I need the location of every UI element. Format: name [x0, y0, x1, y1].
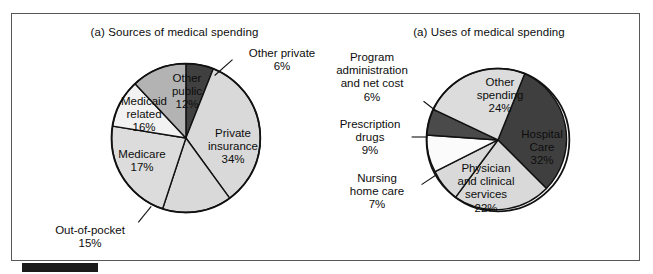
pie-label-other-spending-line2: spending	[463, 89, 537, 102]
leader-line-nursing-home-care	[422, 175, 437, 185]
pie-label-nursing-home-care-line2: home care	[331, 185, 423, 198]
pie-label-other-private-value: 6%	[234, 60, 330, 73]
pie-label-other-private-line1: Other private	[234, 47, 330, 60]
pie-label-program-admin-line2: administration	[321, 64, 423, 77]
pie-label-physician-line2: and clinical	[443, 175, 529, 188]
pie-label-private-insurance-line1: Private	[187, 127, 279, 140]
pie-label-medicaid-related-value: 16%	[107, 121, 181, 134]
pie-label-physician-line3: services	[443, 188, 529, 201]
pie-label-private-insurance-value: 34%	[187, 153, 279, 166]
pie-label-nursing-home-care-value: 7%	[331, 198, 423, 211]
pie-label-other-public-line1: Other	[158, 72, 216, 85]
pie-label-other-spending-value: 24%	[463, 102, 537, 115]
pie-label-prescription-drugs: Prescription drugs 9%	[327, 118, 413, 158]
leader-line-out-of-pocket	[138, 206, 151, 222]
pie-label-other-public-value: 12%	[158, 98, 216, 111]
pie-label-medicare-value: 17%	[105, 161, 179, 174]
pie-label-other-private: Other private 6%	[234, 47, 330, 73]
pie-label-hospital-care-line1: Hospital	[505, 128, 579, 141]
pie-label-other-spending-line1: Other	[463, 76, 537, 89]
footer-black-bar	[22, 263, 98, 272]
pie-label-medicare: Medicare 17%	[105, 148, 179, 174]
pie-label-prescription-drugs-value: 9%	[327, 144, 413, 157]
pie-label-private-insurance: Private insurance 34%	[187, 127, 279, 167]
pie-label-physician-line1: Physician	[443, 162, 529, 175]
panel-uses-of-medical-spending: (a) Uses of medical spending	[337, 14, 641, 260]
pie-label-physician-value: 22%	[443, 202, 529, 215]
pie-label-program-admin-line1: Program	[321, 51, 423, 64]
pie-label-other-public-line2: public	[158, 85, 216, 98]
pie-label-program-admin-line3: and net cost	[321, 77, 423, 90]
pie-label-other-spending: Other spending 24%	[463, 76, 537, 116]
pie-label-nursing-home-care: Nursing home care 7%	[331, 172, 423, 212]
pie-label-other-public: Other public 12%	[158, 72, 216, 112]
pie-label-hospital-care-line2: Care	[505, 141, 579, 154]
pie-label-private-insurance-line2: insurance	[187, 140, 279, 153]
pie-label-out-of-pocket-line1: Out-of-pocket	[38, 224, 142, 237]
pie-label-prescription-drugs-line2: drugs	[327, 131, 413, 144]
figure-frame: (a) Sources of medical spending	[11, 13, 640, 261]
panel-sources-of-medical-spending: (a) Sources of medical spending	[12, 14, 337, 260]
pie-label-out-of-pocket: Out-of-pocket 15%	[38, 224, 142, 250]
pie-label-program-admin-value: 6%	[321, 91, 423, 104]
figure-root: (a) Sources of medical spending	[0, 0, 653, 274]
pie-label-nursing-home-care-line1: Nursing	[331, 172, 423, 185]
pie-label-out-of-pocket-value: 15%	[38, 237, 142, 250]
pie-label-prescription-drugs-line1: Prescription	[327, 118, 413, 131]
pie-label-medicare-line1: Medicare	[105, 148, 179, 161]
pie-label-program-administration-and-net-cost: Program administration and net cost 6%	[321, 51, 423, 104]
pie-label-physician-and-clinical-services: Physician and clinical services 22%	[443, 162, 529, 215]
